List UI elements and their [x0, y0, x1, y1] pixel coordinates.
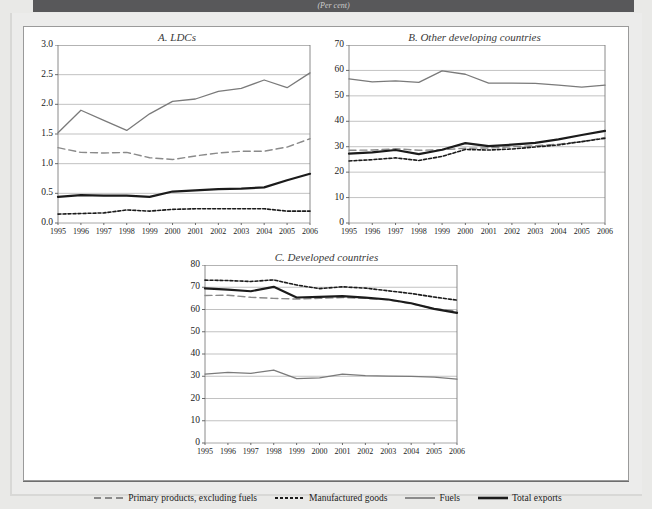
y-axis-tick-label: 80	[179, 259, 200, 269]
series-line	[205, 370, 457, 379]
legend-divider	[23, 481, 629, 482]
x-axis-tick-label: 2005	[570, 227, 594, 236]
plot-area-a	[32, 45, 316, 225]
x-axis-tick-label: 1998	[115, 227, 139, 236]
y-axis-tick-label: 70	[179, 281, 200, 291]
panel-a-title: A. LDCs	[32, 31, 322, 43]
y-axis-tick-label: 10	[179, 415, 200, 425]
y-axis-tick-label: 60	[327, 64, 344, 74]
x-axis-tick-label: 2001	[477, 227, 501, 236]
x-axis-tick-label: 2004	[546, 227, 570, 236]
x-axis-tick-label: 2000	[453, 227, 477, 236]
x-axis-tick-label: 1997	[384, 227, 408, 236]
y-axis-tick-label: 2.5	[32, 69, 53, 79]
x-axis-tick-label: 2003	[229, 227, 253, 236]
legend-item[interactable]: Primary products, excluding fuels	[94, 493, 257, 503]
y-axis-tick-label: 20	[327, 166, 344, 176]
x-axis-tick-label: 2001	[183, 227, 207, 236]
y-axis-tick-label: 0	[179, 437, 200, 447]
legend-item[interactable]: Manufactured goods	[275, 493, 387, 503]
y-axis-tick-label: 20	[179, 393, 200, 403]
chart-card: A. LDCs 0.00.51.01.52.02.53.019951996199…	[23, 26, 629, 481]
legend-label: Primary products, excluding fuels	[128, 493, 257, 503]
dashed-line-icon	[94, 493, 124, 503]
y-axis-tick-label: 0.5	[32, 187, 53, 197]
figure-page: (Per cent) A. LDCs 0.00.51.01.52.02.53.0…	[0, 0, 652, 509]
series-line	[349, 71, 605, 87]
x-axis-tick-label: 1995	[46, 227, 70, 236]
x-axis-tick-label: 1997	[92, 227, 116, 236]
panel-a-ldcs: A. LDCs 0.00.51.01.52.02.53.019951996199…	[32, 31, 322, 246]
legend-label: Manufactured goods	[309, 493, 387, 503]
y-axis-tick-label: 50	[179, 326, 200, 336]
x-axis-tick-label: 2006	[593, 227, 617, 236]
series-line	[205, 295, 457, 311]
x-axis-tick-label: 2003	[523, 227, 547, 236]
x-axis-tick-label: 2005	[275, 227, 299, 236]
y-axis-tick-label: 70	[327, 39, 344, 49]
legend-label: Total exports	[512, 493, 562, 503]
y-axis-tick-label: 40	[327, 115, 344, 125]
y-axis-tick-label: 60	[179, 304, 200, 314]
x-axis-tick-label: 1998	[407, 227, 431, 236]
y-axis-tick-label: 0	[327, 217, 344, 227]
x-axis-tick-label: 2003	[376, 447, 400, 456]
series-line	[349, 131, 605, 154]
plot-area-b	[327, 45, 611, 225]
x-axis-tick-label: 1996	[360, 227, 384, 236]
thick-line-icon	[478, 493, 508, 503]
x-axis-tick-label: 1999	[285, 447, 309, 456]
series-line	[205, 287, 457, 313]
y-axis-tick-label: 0.0	[32, 217, 53, 227]
x-axis-tick-label: 2000	[161, 227, 185, 236]
y-axis-tick-label: 30	[327, 141, 344, 151]
x-axis-tick-label: 2005	[422, 447, 446, 456]
y-axis-tick-label: 2.0	[32, 98, 53, 108]
x-axis-tick-label: 2006	[445, 447, 469, 456]
x-axis-tick-label: 1998	[262, 447, 286, 456]
plot-area-c	[179, 265, 463, 445]
chart-legend: Primary products, excluding fuelsManufac…	[48, 489, 608, 507]
x-axis-tick-label: 2002	[206, 227, 230, 236]
y-axis-tick-label: 10	[327, 192, 344, 202]
x-axis-tick-label: 1997	[239, 447, 263, 456]
dotted-line-icon	[275, 493, 305, 503]
legend-item[interactable]: Fuels	[405, 493, 460, 503]
panel-c-developed: C. Developed countries 01020304050607080…	[179, 251, 474, 466]
series-line	[58, 139, 310, 160]
x-axis-tick-label: 2006	[298, 227, 322, 236]
panel-c-title: C. Developed countries	[179, 251, 474, 263]
solid-line-icon	[405, 493, 435, 503]
x-axis-tick-label: 1995	[337, 227, 361, 236]
mount-edge-left	[10, 13, 12, 496]
x-axis-tick-label: 2004	[399, 447, 423, 456]
legend-label: Fuels	[439, 493, 460, 503]
series-line	[58, 73, 310, 133]
y-axis-tick-label: 1.0	[32, 158, 53, 168]
y-axis-tick-label: 40	[179, 348, 200, 358]
x-axis-tick-label: 1999	[138, 227, 162, 236]
panel-b-other-developing: B. Other developing countries 0102030405…	[327, 31, 622, 246]
y-axis-tick-label: 3.0	[32, 39, 53, 49]
x-axis-tick-label: 2004	[252, 227, 276, 236]
x-axis-tick-label: 1995	[193, 447, 217, 456]
y-axis-tick-label: 50	[327, 90, 344, 100]
x-axis-tick-label: 1996	[216, 447, 240, 456]
figure-header-band: (Per cent)	[33, 0, 634, 12]
y-axis-tick-label: 30	[179, 370, 200, 380]
x-axis-tick-label: 2000	[308, 447, 332, 456]
series-line	[58, 209, 310, 214]
x-axis-tick-label: 1999	[430, 227, 454, 236]
x-axis-tick-label: 2002	[500, 227, 524, 236]
panel-b-title: B. Other developing countries	[327, 31, 622, 43]
y-axis-tick-label: 1.5	[32, 128, 53, 138]
x-axis-tick-label: 2001	[330, 447, 354, 456]
x-axis-tick-label: 2002	[353, 447, 377, 456]
x-axis-tick-label: 1996	[69, 227, 93, 236]
legend-item[interactable]: Total exports	[478, 493, 562, 503]
